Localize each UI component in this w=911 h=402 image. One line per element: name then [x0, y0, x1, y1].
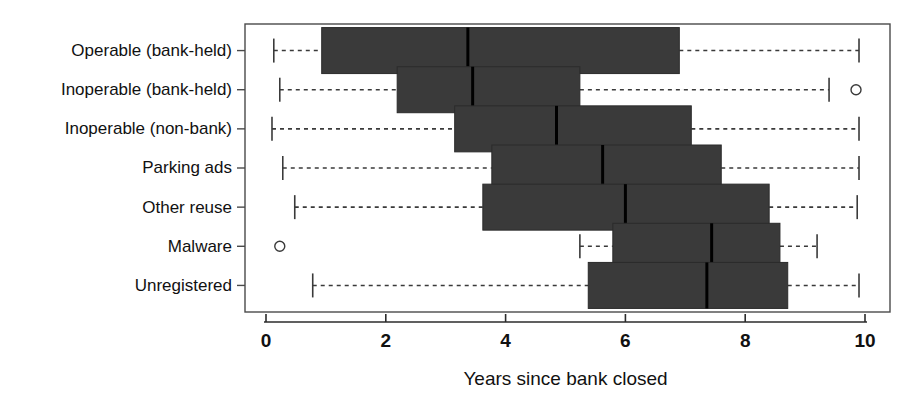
boxplot-figure: Operable (bank-held)Inoperable (bank-hel…: [0, 0, 911, 402]
category-label: Malware: [168, 237, 232, 256]
x-axis-tick-label: 2: [381, 330, 392, 351]
box-rect: [588, 262, 787, 308]
x-axis-tick-label: 0: [261, 330, 272, 351]
boxplot-box-group: [313, 262, 859, 308]
x-axis-tick-label: 6: [620, 330, 631, 351]
x-axis-tick-label: 10: [854, 330, 875, 351]
x-axis-tick-label: 8: [740, 330, 751, 351]
category-label: Inoperable (non-bank): [65, 119, 232, 138]
x-axis-title: Years since bank closed: [463, 368, 667, 389]
category-label: Inoperable (bank-held): [61, 80, 232, 99]
category-label: Parking ads: [142, 158, 232, 177]
category-label: Unregistered: [135, 276, 232, 295]
x-axis-tick-label: 4: [500, 330, 511, 351]
boxplot-canvas: Operable (bank-held)Inoperable (bank-hel…: [0, 0, 911, 402]
category-label: Other reuse: [142, 198, 232, 217]
outlier-point: [275, 241, 285, 251]
category-label: Operable (bank-held): [71, 41, 232, 60]
outlier-point: [851, 85, 861, 95]
